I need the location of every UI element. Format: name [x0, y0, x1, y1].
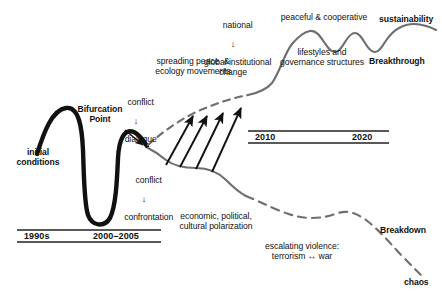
transition-arrow-4 — [212, 108, 241, 172]
timeline-tick-2000-2005: 2000–2005 — [93, 231, 139, 241]
label-lifestyles-governance: lifestyles and governance structures — [267, 48, 377, 67]
transition-arrow-2 — [180, 116, 207, 167]
label-peaceful-cooperative: peaceful & cooperative — [272, 13, 376, 23]
timeline-tick-1990s: 1990s — [24, 231, 50, 241]
national-text: national — [223, 20, 253, 30]
label-conflict-dialogue: conflict ↓ dialogue — [108, 88, 164, 154]
label-breakdown: Breakdown — [380, 226, 442, 236]
conflict-dialogue-top-text: conflict — [128, 97, 154, 107]
conflict-confrontation-top-text: conflict — [136, 175, 162, 185]
down-arrow-icon: ↓ — [108, 117, 164, 126]
timeline-tick-2020: 2020 — [352, 132, 372, 142]
label-breakthrough: Breakthrough — [369, 57, 441, 67]
label-sustainability: sustainability — [379, 15, 442, 25]
down-arrow-icon: ↓ — [186, 40, 280, 49]
transition-arrows-group — [166, 108, 241, 172]
transition-arrow-3 — [196, 113, 223, 169]
transition-arrow-1 — [166, 116, 193, 165]
down-arrow-icon: ↓ — [104, 195, 184, 204]
global-change-text: global institutional change — [204, 57, 271, 77]
conflict-dialogue-bottom-text: dialogue — [125, 134, 157, 144]
label-initial-conditions: initial conditions — [6, 148, 70, 167]
label-national-global-change: national ↓ global institutional change — [186, 11, 280, 87]
diagram-canvas: initial conditions Bifurcation Point con… — [0, 0, 442, 299]
label-escalating-violence: escalating violence: terrorism ↔ war — [249, 242, 355, 261]
timeline-tick-2010: 2010 — [255, 132, 275, 142]
label-chaos: chaos — [404, 278, 442, 288]
label-economic-polarization: economic, political, cultural polarizati… — [164, 212, 268, 231]
